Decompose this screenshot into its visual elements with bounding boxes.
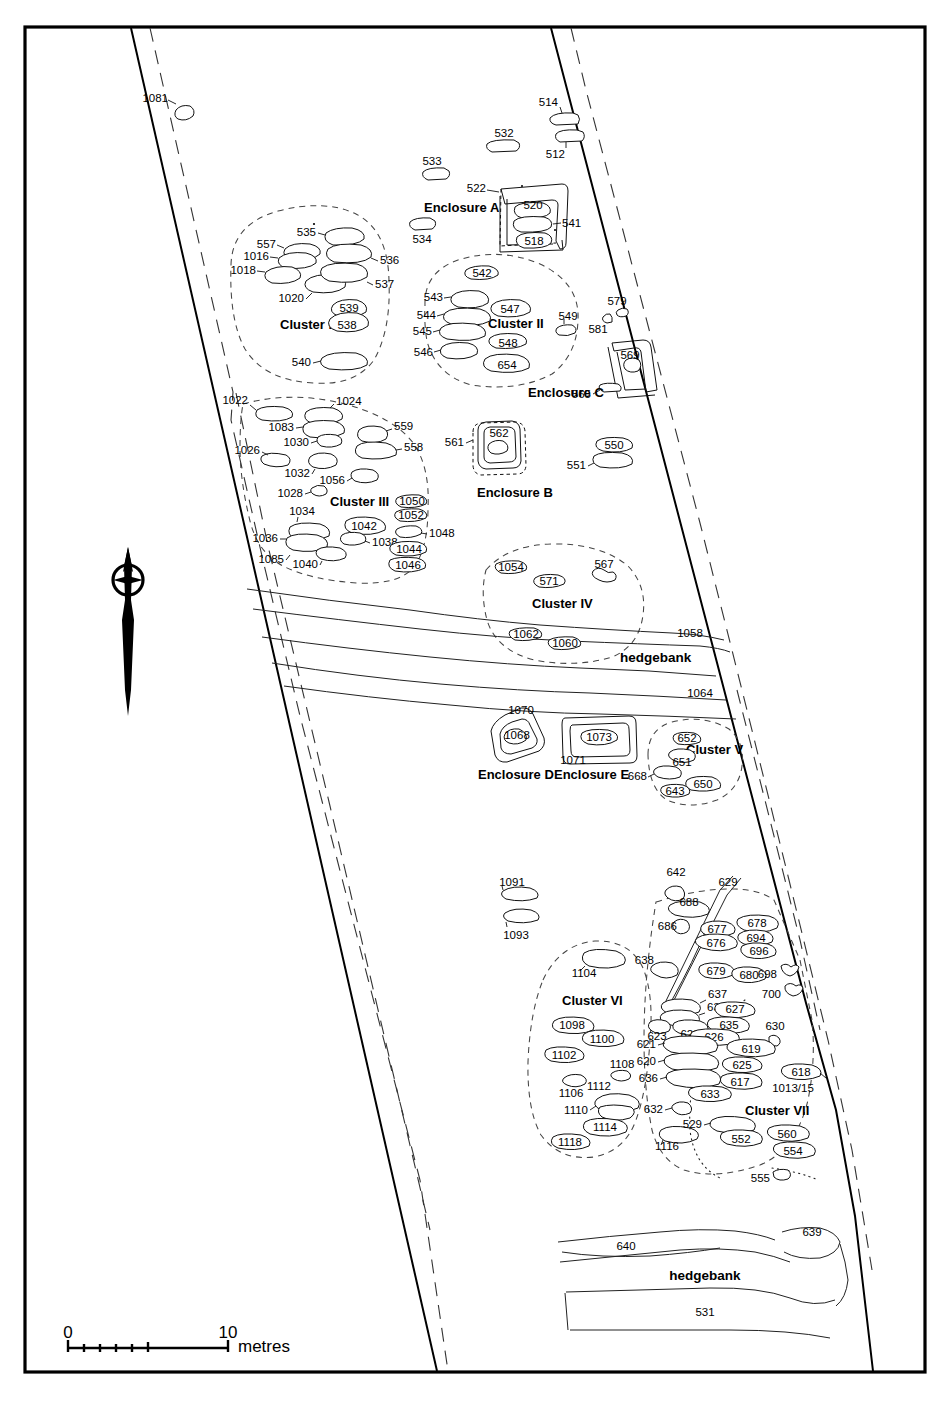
feature-number-696: 696 bbox=[749, 945, 768, 957]
feature-number-561: 561 bbox=[445, 436, 464, 448]
enclosure-c-label: Enclosure C bbox=[528, 385, 604, 400]
feature-number-559: 559 bbox=[394, 420, 413, 432]
feature-number-1081: 1081 bbox=[142, 92, 168, 104]
feature-number-1058: 1058 bbox=[677, 627, 703, 639]
feature-number-700: 700 bbox=[762, 988, 781, 1000]
scale-unit-label: metres bbox=[238, 1337, 290, 1356]
scale-end-label: 10 bbox=[219, 1323, 238, 1342]
feature-number-1022: 1022 bbox=[222, 394, 248, 406]
feature-number-529: 529 bbox=[683, 1118, 702, 1130]
feature-number-640: 640 bbox=[616, 1240, 635, 1252]
feature-number-579: 579 bbox=[607, 295, 626, 307]
feature-number-619: 619 bbox=[741, 1043, 760, 1055]
feature-number-1116: 1116 bbox=[655, 1140, 679, 1152]
feature-number-1032: 1032 bbox=[284, 467, 310, 479]
feature-number-545: 545 bbox=[413, 325, 432, 337]
enclosure-b-label: Enclosure B bbox=[477, 485, 553, 500]
feature-number-620: 620 bbox=[637, 1055, 656, 1067]
feature-number-1020: 1020 bbox=[278, 292, 304, 304]
cluster-ii-label: Cluster II bbox=[488, 316, 544, 331]
cluster-vi-label: Cluster VI bbox=[562, 993, 623, 1008]
feature-number-1118: 1118 bbox=[558, 1136, 582, 1148]
feature-number-562: 562 bbox=[489, 427, 508, 439]
feature-number-1073: 1073 bbox=[586, 731, 612, 743]
hedgebank-label-north: hedgebank bbox=[620, 650, 692, 665]
feature-number-550: 550 bbox=[604, 439, 623, 451]
feature-number-1048: 1048 bbox=[429, 527, 455, 539]
feature-number-643: 643 bbox=[665, 785, 684, 797]
feature-number-1112: 1112 bbox=[587, 1080, 611, 1092]
feature-number-555: 555 bbox=[751, 1172, 770, 1184]
feature-number-677: 677 bbox=[707, 923, 726, 935]
feature-number-1056: 1056 bbox=[319, 474, 345, 486]
hedgebank-label-south: hedgebank bbox=[669, 1268, 741, 1283]
feature-number-1083: 1083 bbox=[268, 421, 294, 433]
feature-number-1085: 1085 bbox=[258, 553, 284, 565]
feature-number-1108: 1108 bbox=[610, 1058, 635, 1070]
feature-number-698: 698 bbox=[758, 968, 777, 980]
feature-number-679: 679 bbox=[706, 965, 725, 977]
feature-number-544: 544 bbox=[417, 309, 437, 321]
feature-number-633: 633 bbox=[700, 1088, 719, 1100]
feature-number-581: 581 bbox=[588, 323, 607, 335]
feature-number-1028: 1028 bbox=[277, 487, 303, 499]
feature-number-567: 567 bbox=[594, 558, 613, 570]
feature-number-537: 537 bbox=[375, 278, 394, 290]
feature-number-1050: 1050 bbox=[399, 495, 425, 507]
cluster-i-label: Cluster I bbox=[280, 317, 332, 332]
feature-number-637: 637 bbox=[708, 988, 727, 1000]
feature-number-642: 642 bbox=[666, 866, 685, 878]
feature-number-512: 512 bbox=[546, 148, 565, 160]
feature-number-688: 688 bbox=[679, 896, 698, 908]
feature-number-541: 541 bbox=[562, 217, 581, 229]
feature-number-569: 569 bbox=[620, 349, 639, 361]
feature-number-1026: 1026 bbox=[234, 444, 260, 456]
feature-number-651: 651 bbox=[672, 756, 691, 768]
feature-number-542: 542 bbox=[472, 267, 491, 279]
feature-number-1106: 1106 bbox=[559, 1087, 584, 1099]
feature-number-1114: 1114 bbox=[593, 1121, 617, 1133]
feature-number-1040: 1040 bbox=[292, 558, 318, 570]
feature-number-546: 546 bbox=[414, 346, 433, 358]
feature-number-617: 617 bbox=[730, 1076, 749, 1088]
feature-number-1100: 1100 bbox=[590, 1033, 615, 1045]
feature-number-1030: 1030 bbox=[283, 436, 309, 448]
feature-number-627: 627 bbox=[725, 1003, 744, 1015]
feature-number-538: 538 bbox=[337, 319, 356, 331]
feature-number-532: 532 bbox=[494, 127, 513, 139]
feature-number-1068: 1068 bbox=[504, 729, 530, 741]
scale-start-label: 0 bbox=[63, 1323, 72, 1342]
enclosure-d-label: Enclosure D bbox=[478, 767, 554, 782]
feature-number-540: 540 bbox=[292, 356, 311, 368]
feature-number-1098: 1098 bbox=[559, 1019, 585, 1031]
enclosure-e-label: Enclosure E bbox=[554, 767, 629, 782]
feature-number-1034: 1034 bbox=[289, 505, 315, 517]
feature-number-1016: 1016 bbox=[243, 250, 269, 262]
feature-number-1036: 1036 bbox=[252, 532, 278, 544]
feature-number-551: 551 bbox=[567, 459, 586, 471]
feature-number-629: 629 bbox=[718, 876, 737, 888]
feature-number-1070: 1070 bbox=[508, 704, 534, 716]
feature-number-520: 520 bbox=[523, 199, 542, 211]
feature-number-686: 686 bbox=[658, 920, 677, 932]
feature-number-518: 518 bbox=[524, 235, 543, 247]
plan-canvas: 1081 514 512 532 533 534 522 520 541 518… bbox=[0, 0, 952, 1413]
feature-number-625: 625 bbox=[732, 1059, 751, 1071]
feature-number-680: 680 bbox=[739, 969, 758, 981]
feature-number-543: 543 bbox=[424, 291, 443, 303]
feature-number-1064: 1064 bbox=[687, 687, 713, 699]
feature-number-1054: 1054 bbox=[498, 561, 524, 573]
feature-number-1013-15: 1013/15 bbox=[772, 1082, 814, 1094]
feature-number-558: 558 bbox=[404, 441, 423, 453]
cluster-iii-label: Cluster III bbox=[330, 494, 389, 509]
feature-number-652: 652 bbox=[677, 732, 696, 744]
feature-number-1091: 1091 bbox=[499, 876, 525, 888]
feature-number-654: 654 bbox=[497, 359, 517, 371]
feature-number-1060: 1060 bbox=[552, 637, 578, 649]
feature-number-1018: 1018 bbox=[230, 264, 256, 276]
feature-number-678: 678 bbox=[747, 917, 766, 929]
feature-number-514: 514 bbox=[539, 96, 559, 108]
feature-number-1104: 1104 bbox=[572, 967, 597, 979]
feature-number-560: 560 bbox=[777, 1128, 796, 1140]
feature-number-638: 638 bbox=[635, 954, 654, 966]
